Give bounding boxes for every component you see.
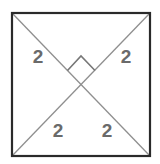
square-diagonals-diagram: 2 2 2 2 [0, 0, 160, 164]
label-top-right: 2 [121, 46, 132, 67]
label-top-left: 2 [33, 46, 44, 67]
label-bottom-right: 2 [102, 120, 113, 141]
right-angle-marker [68, 56, 96, 71]
label-bottom-left: 2 [53, 120, 64, 141]
